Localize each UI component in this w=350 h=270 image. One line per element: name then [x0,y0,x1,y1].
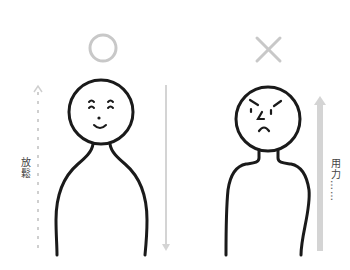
tense-figure [226,87,309,255]
down-arrow-icon [162,85,170,251]
correct-circle-icon [90,35,116,61]
tense-label: 用力…… [329,158,339,202]
relaxed-figure [56,80,147,255]
incorrect-cross-icon [257,38,280,61]
up-arrow-icon [314,96,326,251]
tense-head [236,87,300,151]
left-panel [34,35,170,255]
relaxed-face-icon [89,101,113,129]
illustration [0,0,350,270]
relax-label: 放鬆 [19,157,29,179]
angry-face-icon [250,100,281,131]
dashed-up-arrow-icon [34,86,42,250]
relaxed-head [69,80,133,144]
right-panel [226,38,326,255]
